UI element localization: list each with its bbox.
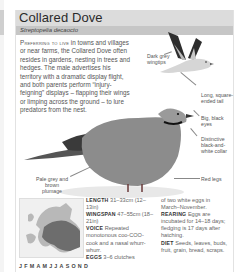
fact-eggs-label: EGGS <box>86 254 102 260</box>
label-legs: Red legs <box>201 176 231 182</box>
intro-body: in towns and villages or near farms, the… <box>20 39 130 113</box>
fact-diet-label: DIET <box>161 240 174 246</box>
intro-lead: Preferring to live <box>20 39 69 46</box>
label-plumage: Pale grey and brown plumage <box>36 176 68 195</box>
species-title: Collared Dove <box>19 10 103 26</box>
label-collar: Distinctive black-and-white collar <box>201 136 233 155</box>
month-strip: JFMAMJJASOND <box>19 263 85 269</box>
facts-column-1: LENGTH 31–33cm (12–13in) WINGSPAN 47–55c… <box>86 197 154 261</box>
species-scientific-name: Streptopelia decaocto <box>20 26 78 35</box>
previous-page-edge <box>0 0 4 272</box>
previous-page-title-band <box>0 10 4 35</box>
fact-wingspan-label: WINGSPAN <box>86 211 116 217</box>
species-card: Collared Dove Streptopelia decaocto Pref… <box>15 10 234 272</box>
range-map <box>19 198 84 258</box>
leader-line-legs <box>174 178 200 179</box>
title-band: Collared Dove <box>16 10 233 26</box>
europe-map-icon <box>20 199 83 257</box>
intro-paragraph: Preferring to live in towns and villages… <box>20 39 132 115</box>
label-eyes: Big, black eyes <box>201 115 233 127</box>
fact-length-label: LENGTH <box>86 197 109 203</box>
label-tail: Long, square-ended tail <box>201 92 233 104</box>
fact-eggs-value-a: 3–6 clutches <box>102 254 135 260</box>
fact-rearing-label: REARING <box>161 211 186 217</box>
fact-eggs-value-b: of two white eggs in March–November. <box>161 197 210 210</box>
label-wingtips: Dark grey wingtips <box>147 53 171 65</box>
facts-column-2: of two white eggs in March–November. REA… <box>161 197 229 254</box>
fact-voice-label: VOICE <box>86 225 103 231</box>
